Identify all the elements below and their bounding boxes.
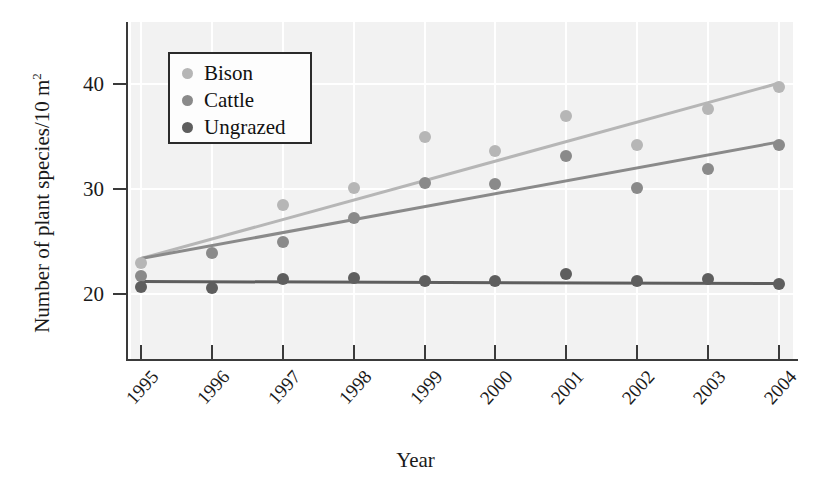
x-axis-tick	[140, 345, 142, 359]
x-axis-tick	[282, 345, 284, 359]
y-axis-tick-label: 30	[62, 177, 104, 202]
gridline-horizontal	[131, 188, 793, 190]
x-axis-tick	[778, 345, 780, 359]
data-point-ungrazed	[702, 273, 714, 285]
y-axis-tick	[113, 293, 127, 295]
legend-marker-icon	[182, 95, 193, 106]
data-point-cattle	[277, 236, 289, 248]
gridline-vertical	[140, 22, 142, 360]
data-point-ungrazed	[277, 273, 289, 285]
x-axis-line	[126, 359, 798, 361]
x-axis-tick-label: 2001	[535, 366, 589, 422]
y-axis-tick-label: 40	[62, 72, 104, 97]
x-axis-tick-label: 2004	[748, 366, 802, 422]
data-point-cattle	[560, 150, 572, 162]
x-axis-tick-label: 1999	[393, 366, 447, 422]
y-axis-tick	[113, 188, 127, 190]
data-point-bison	[135, 257, 147, 269]
data-point-cattle	[489, 178, 501, 190]
x-axis-tick	[424, 345, 426, 359]
data-point-bison	[419, 131, 431, 143]
data-point-ungrazed	[489, 275, 501, 287]
x-axis-tick	[707, 345, 709, 359]
data-point-bison	[277, 199, 289, 211]
data-point-ungrazed	[560, 268, 572, 280]
y-axis-tick	[113, 83, 127, 85]
legend-item-label: Bison	[204, 63, 253, 84]
x-axis-tick-label: 2002	[606, 366, 660, 422]
data-point-ungrazed	[419, 275, 431, 287]
x-axis-tick-label: 1996	[180, 366, 234, 422]
data-point-cattle	[348, 212, 360, 224]
x-axis-tick-label: 2003	[677, 366, 731, 422]
y-axis-title-text: Number of plant species/10 m	[30, 80, 54, 333]
data-point-ungrazed	[773, 278, 785, 290]
legend-marker-icon	[182, 68, 193, 79]
chart-figure: 203040 199519961997199819992000200120022…	[0, 0, 831, 488]
gridline-vertical	[707, 22, 709, 360]
data-point-bison	[348, 182, 360, 194]
data-point-cattle	[206, 247, 218, 259]
data-point-bison	[702, 103, 714, 115]
data-point-ungrazed	[135, 281, 147, 293]
data-point-ungrazed	[206, 282, 218, 294]
legend-marker-icon	[182, 122, 193, 133]
y-axis-tick-label: 20	[62, 282, 104, 307]
data-point-cattle	[419, 177, 431, 189]
x-axis-tick-label: 1995	[110, 366, 164, 422]
x-axis-title: Year	[0, 448, 831, 473]
x-axis-tick	[636, 345, 638, 359]
legend-item-bison[interactable]: Bison	[182, 60, 310, 87]
gridline-horizontal	[131, 293, 793, 295]
gridline-vertical	[778, 22, 780, 360]
x-axis-tick	[353, 345, 355, 359]
data-point-bison	[631, 139, 643, 151]
gridline-vertical	[424, 22, 426, 360]
legend: BisonCattleUngrazed	[168, 52, 312, 144]
legend-item-cattle[interactable]: Cattle	[182, 87, 310, 114]
x-axis-tick-label: 1998	[322, 366, 376, 422]
data-point-cattle	[702, 163, 714, 175]
x-axis-tick-label: 2000	[464, 366, 518, 422]
y-axis-title: Number of plant species/10 m2	[29, 43, 55, 363]
x-axis-tick	[211, 345, 213, 359]
data-point-ungrazed	[631, 275, 643, 287]
x-axis-tick	[565, 345, 567, 359]
data-point-cattle	[773, 139, 785, 151]
data-point-bison	[560, 110, 572, 122]
legend-item-label: Ungrazed	[204, 117, 286, 138]
data-point-bison	[773, 81, 785, 93]
y-axis-line	[126, 22, 128, 360]
x-axis-tick	[494, 345, 496, 359]
data-point-bison	[489, 145, 501, 157]
data-point-cattle	[631, 182, 643, 194]
legend-item-label: Cattle	[204, 90, 254, 111]
legend-item-ungrazed[interactable]: Ungrazed	[182, 114, 310, 141]
gridline-vertical	[565, 22, 567, 360]
y-axis-title-exponent: 2	[29, 73, 44, 80]
x-axis-tick-label: 1997	[251, 366, 305, 422]
data-point-ungrazed	[348, 272, 360, 284]
